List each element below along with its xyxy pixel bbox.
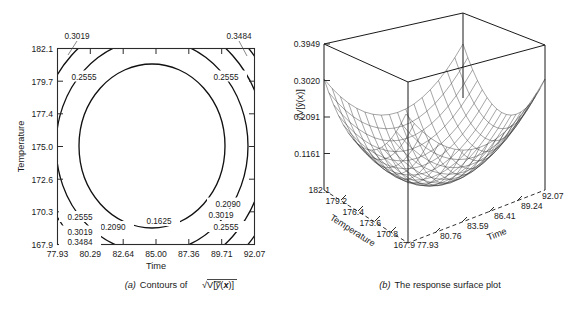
svg-text:0.2555: 0.2555 xyxy=(213,223,238,232)
caption-a-text: Contours of xyxy=(140,280,188,290)
surface-plot-svg: 0.3949 0.3020 0.2091 0.1161 √V[ŷ(x)] 182… xyxy=(293,0,587,309)
svg-text:0.2555: 0.2555 xyxy=(67,213,92,222)
svg-text:0.2555: 0.2555 xyxy=(213,73,238,82)
time-tick-label-2: 83.59 xyxy=(467,221,489,231)
y-tick-label-4: 172.6 xyxy=(31,175,53,185)
z-tick-label-1: 0.3020 xyxy=(294,76,321,86)
time-tick-label-0: 77.93 xyxy=(417,240,439,250)
svg-text:0.2555: 0.2555 xyxy=(71,73,96,82)
y-axis-title: Temperature xyxy=(16,121,26,173)
contour-label-top-right: 0.3484 xyxy=(218,30,260,41)
contour-label-lower-left-2: 0.3019 xyxy=(59,226,101,237)
contour-label-lower-right-2: 0.3019 xyxy=(200,209,242,220)
y-tick-label-0: 182.1 xyxy=(31,44,53,54)
x-tick-label-4: 87.36 xyxy=(178,249,200,259)
panel-a-contour-plot: 182.1 179.7 177.4 175.0 172.6 170.3 167.… xyxy=(0,0,293,309)
svg-text:0.1625: 0.1625 xyxy=(146,217,171,226)
panel-a-caption: (a)Contours of √V[ȳ(x)] xyxy=(125,280,237,291)
x-tick-label-0: 77.93 xyxy=(47,249,69,259)
temp-tick-label-3: 173.6 xyxy=(359,218,381,228)
temp-tick-label-5: 167.9 xyxy=(393,240,415,250)
x-tick-label-6: 92.07 xyxy=(244,249,266,259)
temp-tick-label-4: 170.8 xyxy=(376,229,398,239)
contour-label-center: 0.1625 xyxy=(138,215,180,226)
contour-label-top-left: 0.3019 xyxy=(56,30,98,41)
contour-label-lower-right-3: 0.2555 xyxy=(205,221,247,232)
svg-text:(a)Contours of: (a)Contours of xyxy=(125,280,188,290)
caption-a-expression: √V[ȳ(x)] xyxy=(202,280,237,291)
svg-text:0.3019: 0.3019 xyxy=(67,228,92,237)
panel-b-caption: (b)The response surface plot xyxy=(379,280,501,290)
x-tick-label-1: 80.29 xyxy=(80,249,102,259)
time-tick-label-1: 80.76 xyxy=(440,231,462,241)
contour-plot-svg: 182.1 179.7 177.4 175.0 172.6 170.3 167.… xyxy=(0,0,293,309)
z-tickmarks xyxy=(324,44,330,154)
figure-container: 182.1 179.7 177.4 175.0 172.6 170.3 167.… xyxy=(0,0,587,309)
contour-line-0.1625 xyxy=(79,64,225,228)
svg-text:0.3019: 0.3019 xyxy=(64,32,89,41)
x-tick-label-5: 89.71 xyxy=(211,249,233,259)
contour-label-lower-left-3: 0.3484 xyxy=(59,236,101,247)
svg-text:0.3484: 0.3484 xyxy=(226,32,251,41)
x-tick-label-3: 85.00 xyxy=(145,249,167,259)
x-axis-title: Time xyxy=(146,261,166,271)
x-tick-label-2: 82.64 xyxy=(112,249,134,259)
svg-text:0.3484: 0.3484 xyxy=(67,238,92,247)
temp-tick-label-1: 179.2 xyxy=(325,196,347,206)
temp-tick-label-2: 176.4 xyxy=(342,207,364,217)
time-tick-label-4: 89.24 xyxy=(521,201,543,211)
contour-label-lower-left-1: 0.2555 xyxy=(59,211,101,222)
z-tick-label-3: 0.1161 xyxy=(294,149,320,159)
y-tick-label-3: 175.0 xyxy=(31,142,53,152)
z-tick-label-0: 0.3949 xyxy=(294,39,321,49)
svg-text:0.3019: 0.3019 xyxy=(208,211,233,220)
y-tick-label-5: 170.3 xyxy=(31,207,53,217)
svg-text:√V[ŷ(x)]: √V[ŷ(x)] xyxy=(295,89,305,121)
caption-b-prefix: (b) xyxy=(379,280,390,290)
caption-b-text: The response surface plot xyxy=(395,280,502,290)
time-tick-label-5: 92.07 xyxy=(542,191,564,201)
caption-a-prefix: (a) xyxy=(125,280,136,290)
surface-wireframe-mesh xyxy=(324,44,545,186)
panel-b-surface-plot: 0.3949 0.3020 0.2091 0.1161 √V[ŷ(x)] 182… xyxy=(293,0,587,309)
contour-label-lower-right-1: 0.2090 xyxy=(207,198,249,209)
temp-tick-label-0: 182.1 xyxy=(308,185,330,195)
y-tick-label-1: 179.7 xyxy=(31,77,53,87)
svg-text:0.2090: 0.2090 xyxy=(100,223,125,232)
y-tick-label-2: 177.4 xyxy=(31,109,53,119)
time-tick-label-3: 86.41 xyxy=(494,211,516,221)
z-axis-title: √V[ŷ(x)] xyxy=(295,89,305,121)
time-axis-title: Time xyxy=(486,226,508,243)
contour-label-upper-right: 0.2555 xyxy=(205,71,247,82)
svg-text:0.2090: 0.2090 xyxy=(215,200,240,209)
contour-label-upper-left: 0.2555 xyxy=(63,71,105,82)
